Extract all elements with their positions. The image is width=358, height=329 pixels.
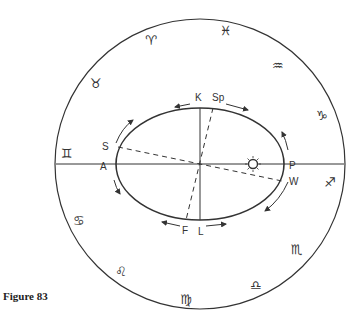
pisces-icon: ♓ <box>220 23 232 38</box>
label-sp: Sp <box>212 92 225 103</box>
leo-icon: ♌ <box>115 264 127 279</box>
label-p: P <box>289 160 296 171</box>
label-l: L <box>198 226 204 237</box>
label-s: S <box>102 141 109 152</box>
scorpio-icon: ♏ <box>291 242 303 257</box>
label-a: A <box>100 161 107 172</box>
gemini-icon: ♊ <box>61 146 73 161</box>
capricorn-icon: ♑ <box>316 108 328 123</box>
label-k: K <box>195 92 202 103</box>
cancer-icon: ♋ <box>73 213 85 228</box>
aries-icon: ♈ <box>145 33 157 48</box>
sagittarius-icon: ♐ <box>324 175 336 190</box>
virgo-icon: ♍ <box>180 292 192 307</box>
motion-arrows <box>114 104 288 226</box>
label-w: W <box>289 176 299 187</box>
figure-caption: Figure 83 <box>3 290 48 302</box>
libra-icon: ♎ <box>250 278 262 293</box>
label-f: F <box>182 225 188 236</box>
aquarius-icon: ♒ <box>272 58 284 73</box>
taurus-icon: ♉ <box>90 76 102 91</box>
orbit-diagram: K Sp S A P W F L ♈ ♓ ♒ ♑ ♉ ♊ ♐ ♋ ♏ ♌ ♎ ♍ <box>0 0 358 329</box>
